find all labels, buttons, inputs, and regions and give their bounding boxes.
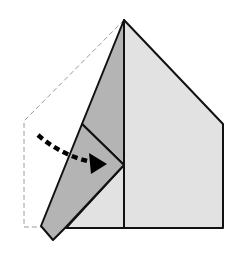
- right-paper-panel: [124, 20, 223, 228]
- origami-diagram: [0, 0, 236, 258]
